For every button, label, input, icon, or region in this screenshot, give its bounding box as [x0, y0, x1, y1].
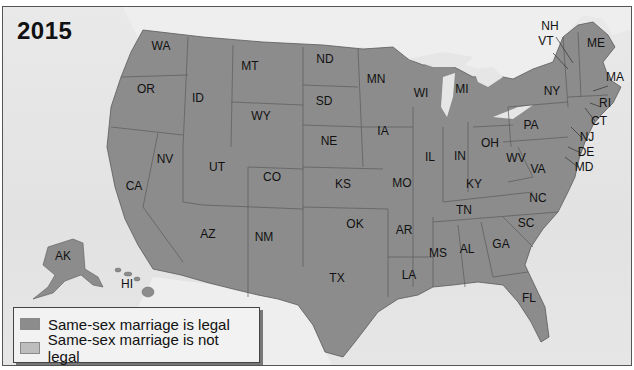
not-legal-swatch [20, 342, 40, 354]
legend-item-not-legal: Same-sex marriage is not legal [20, 336, 253, 360]
state-label-ok: OK [346, 217, 363, 231]
state-label-nj: NJ [580, 130, 595, 144]
state-label-de: DE [578, 145, 595, 159]
state-label-tx: TX [329, 271, 344, 285]
state-label-sd: SD [316, 94, 333, 108]
state-label-wi: WI [414, 86, 429, 100]
state-label-mn: MN [367, 72, 386, 86]
state-label-wv: WV [506, 151, 525, 165]
state-label-oh: OH [481, 136, 499, 150]
state-label-ga: GA [492, 237, 509, 251]
map-title: 2015 [17, 17, 72, 45]
state-label-vt: VT [538, 34, 553, 48]
state-label-co: CO [263, 170, 281, 184]
state-label-nd: ND [316, 52, 333, 66]
state-label-in: IN [454, 149, 466, 163]
state-label-ks: KS [335, 177, 351, 191]
state-label-md: MD [575, 160, 594, 174]
state-label-ma: MA [606, 70, 624, 84]
state-label-nm: NM [255, 230, 274, 244]
state-label-mi: MI [455, 82, 468, 96]
state-label-tn: TN [456, 203, 472, 217]
state-label-wa: WA [152, 39, 171, 53]
state-label-hi: HI [121, 277, 133, 291]
alaska [33, 239, 103, 299]
state-label-id: ID [192, 91, 204, 105]
state-label-pa: PA [523, 118, 538, 132]
state-label-ri: RI [599, 96, 611, 110]
state-label-ut: UT [209, 160, 225, 174]
state-label-ia: IA [377, 124, 388, 138]
state-label-ny: NY [544, 84, 561, 98]
state-label-or: OR [137, 82, 155, 96]
state-label-nh: NH [541, 19, 558, 33]
state-label-al: AL [460, 242, 475, 256]
state-label-il: IL [425, 150, 435, 164]
legal-swatch [20, 318, 40, 330]
state-label-ms: MS [429, 246, 447, 260]
state-label-az: AZ [200, 227, 215, 241]
state-label-mo: MO [392, 176, 411, 190]
map-frame: 2015 WAORIDMTWYNDSDMNWIMINEIAILINOHNVUTC… [2, 6, 632, 366]
state-label-ct: CT [591, 114, 607, 128]
state-label-me: ME [587, 36, 605, 50]
state-label-fl: FL [522, 291, 536, 305]
state-label-ar: AR [396, 223, 413, 237]
state-label-ne: NE [321, 134, 338, 148]
state-label-mt: MT [241, 59, 258, 73]
state-label-la: LA [402, 268, 417, 282]
legend: Same-sex marriage is legal Same-sex marr… [13, 307, 260, 363]
state-label-wy: WY [251, 109, 270, 123]
legend-label: Same-sex marriage is not legal [48, 331, 253, 365]
state-label-ky: KY [466, 177, 482, 191]
state-label-sc: SC [518, 216, 535, 230]
legend-label: Same-sex marriage is legal [48, 316, 230, 333]
state-label-ak: AK [55, 249, 71, 263]
state-label-ca: CA [126, 179, 143, 193]
state-label-nv: NV [157, 152, 174, 166]
state-label-va: VA [530, 162, 545, 176]
state-label-nc: NC [529, 191, 546, 205]
